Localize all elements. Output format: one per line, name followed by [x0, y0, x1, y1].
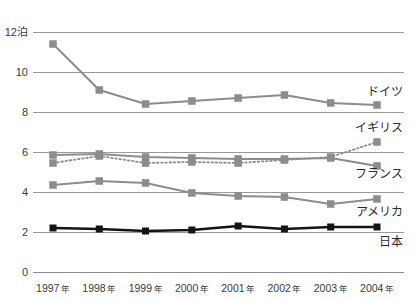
x-tick-suffix: 年: [154, 284, 163, 294]
data-point-marker: [281, 226, 288, 233]
data-point-marker: [188, 189, 196, 197]
data-point-marker: [188, 97, 196, 105]
data-point-marker: [374, 224, 381, 231]
series-label-ドイツ: ドイツ: [367, 85, 403, 99]
x-tick-label-2001: 2001年: [221, 282, 255, 294]
data-point-marker: [49, 181, 57, 189]
data-point-marker: [281, 193, 289, 201]
data-point-marker: [373, 101, 381, 109]
data-point-marker: [327, 154, 335, 162]
x-tick-label-2004: 2004年: [360, 282, 394, 294]
data-point-marker: [327, 200, 335, 208]
chart-container: 024681012泊 ドイツイギリスフランスアメリカ日本 1997年1998年1…: [0, 0, 418, 301]
data-point-marker: [96, 86, 104, 94]
data-point-marker: [373, 195, 381, 203]
x-tick-label-1999: 1999年: [129, 282, 163, 294]
y-tick-label-12: 12泊: [5, 26, 28, 38]
x-tick-suffix: 年: [339, 284, 348, 294]
x-tick-suffix: 年: [107, 284, 116, 294]
data-point-marker: [96, 177, 104, 185]
series-label-日本: 日本: [379, 235, 403, 249]
x-tick-suffix: 年: [61, 284, 70, 294]
data-point-marker: [142, 153, 150, 161]
data-point-marker: [281, 91, 289, 99]
data-point-marker: [373, 138, 381, 146]
data-point-marker: [234, 155, 242, 163]
x-tick-label-2000: 2000年: [175, 282, 209, 294]
x-tick-suffix: 年: [385, 284, 394, 294]
data-point-marker: [188, 227, 195, 234]
x-tick-label-1997: 1997年: [36, 282, 70, 294]
y-tick-label-8: 8: [22, 106, 28, 118]
data-point-marker: [235, 223, 242, 230]
y-tick-label-4: 4: [22, 186, 28, 198]
series-label-イギリス: イギリス: [355, 121, 403, 135]
data-point-marker: [142, 100, 150, 108]
y-tick-label-0: 0: [22, 266, 28, 278]
series-label-アメリカ: アメリカ: [356, 205, 403, 219]
x-tick-suffix: 年: [200, 284, 209, 294]
data-point-marker: [49, 40, 57, 48]
data-point-marker: [281, 155, 289, 163]
data-point-marker: [142, 179, 150, 187]
data-point-marker: [96, 226, 103, 233]
line-chart: 024681012泊 ドイツイギリスフランスアメリカ日本 1997年1998年1…: [0, 0, 418, 301]
x-tick-suffix: 年: [246, 284, 255, 294]
x-tick-label-2002: 2002年: [267, 282, 301, 294]
chart-background: [0, 0, 418, 301]
y-tick-label-10: 10: [16, 66, 28, 78]
y-tick-label-6: 6: [22, 146, 28, 158]
x-tick-label-1998: 1998年: [82, 282, 116, 294]
data-point-marker: [234, 192, 242, 200]
data-point-marker: [188, 154, 196, 162]
data-point-marker: [142, 228, 149, 235]
data-point-marker: [49, 151, 57, 159]
y-tick-label-2: 2: [22, 226, 28, 238]
data-point-marker: [327, 224, 334, 231]
series-label-フランス: フランス: [355, 167, 403, 181]
data-point-marker: [96, 150, 104, 158]
data-point-marker: [234, 94, 242, 102]
data-point-marker: [327, 99, 335, 107]
data-point-marker: [50, 225, 57, 232]
data-point-marker: [49, 159, 57, 167]
x-tick-suffix: 年: [292, 284, 301, 294]
x-tick-label-2003: 2003年: [314, 282, 348, 294]
